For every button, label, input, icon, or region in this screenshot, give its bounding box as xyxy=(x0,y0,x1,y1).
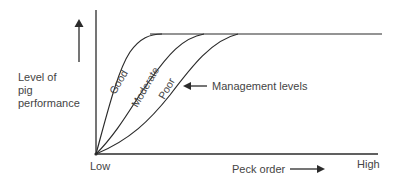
x-axis-low-label: Low xyxy=(90,160,110,173)
origin-point xyxy=(94,152,97,155)
x-axis-high-label: High xyxy=(357,158,380,171)
x-axis-label: Peck order xyxy=(232,163,285,176)
management-levels-label: Management levels xyxy=(212,80,307,93)
y-axis-label: Level of pig performance xyxy=(18,71,93,110)
x-direction-arrow-icon xyxy=(290,165,325,173)
y-direction-arrow-icon xyxy=(75,19,84,62)
management-arrow-icon xyxy=(183,82,207,90)
y-axis-label-line-3: performance xyxy=(18,97,93,110)
y-axis-label-line-1: Level of xyxy=(18,71,93,84)
y-axis-label-line-2: pig xyxy=(18,84,93,97)
